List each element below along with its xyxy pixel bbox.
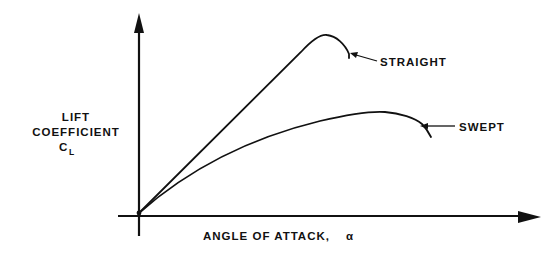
y-axis-label-subscript: L (69, 147, 75, 157)
y-axis-label-symbol: C (59, 141, 68, 153)
swept-label: SWEPT (459, 121, 505, 133)
swept-wing-curve (139, 112, 431, 213)
leader-arrowhead-icon (350, 52, 358, 58)
x-axis-label: ANGLE OF ATTACK, (203, 230, 330, 242)
y-axis-label-line2: COEFFICIENT (32, 126, 120, 138)
straight-wing-curve (139, 35, 349, 213)
y-axis (134, 13, 144, 236)
straight-label: STRAIGHT (380, 56, 447, 68)
x-axis-arrow-icon (518, 211, 541, 223)
straight-leader-arrow (350, 52, 377, 61)
y-axis-label-line1: LIFT (62, 111, 90, 123)
lift-curve-diagram: STRAIGHT SWEPT LIFT COEFFICIENT C L ANGL… (0, 0, 553, 254)
x-axis (118, 211, 541, 223)
x-axis-alpha-symbol: α (346, 230, 354, 242)
y-axis-arrow-icon (134, 13, 144, 33)
